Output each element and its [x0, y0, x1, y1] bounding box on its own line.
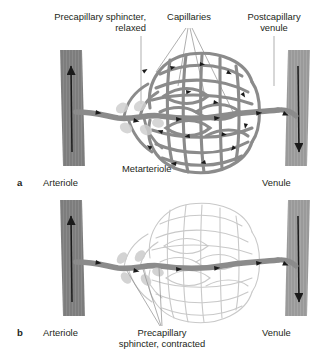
venule-b — [285, 200, 310, 316]
precapillary-sphincter-contracted-line2: sphincter, contracted — [119, 338, 206, 349]
arteriole-b-label: Arteriole — [43, 327, 78, 338]
arteriole-b-flow-arrow — [71, 216, 72, 302]
arteriole-a-label: Arteriole — [43, 177, 78, 188]
panel-b-label: b — [17, 327, 23, 338]
arteriole-a — [60, 50, 85, 166]
metarteriole-label: Metarteriole — [122, 163, 172, 174]
postcapillary-venule-line1: Postcapillary — [247, 11, 300, 22]
postcapillary-venule-line2: venule — [260, 22, 288, 33]
panel-a-label: a — [17, 177, 23, 188]
venule-a-label: Venule — [262, 177, 291, 188]
venule-b-label: Venule — [262, 327, 291, 338]
arteriole-a-flow-arrow — [71, 66, 72, 152]
precapillary-sphincter-contracted-line1: Precapillary — [138, 327, 187, 338]
arteriole-b — [60, 200, 85, 316]
microcirculation-figure: Precapillary sphincter, relaxed Capillar… — [0, 0, 335, 357]
precapillary-sphincter-relaxed-line1: Precapillary sphincter, — [54, 11, 146, 22]
precapillary-sphincter-relaxed-line2: relaxed — [115, 22, 146, 33]
capillaries-label: Capillaries — [167, 11, 211, 22]
label-capillaries: Capillaries — [167, 11, 211, 22]
venule-b-flow-arrow — [298, 216, 299, 302]
venule-a — [285, 50, 310, 166]
venule-a-flow-arrow — [298, 66, 299, 152]
